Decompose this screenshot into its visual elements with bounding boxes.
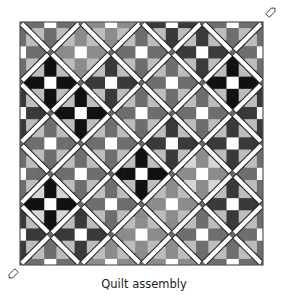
sashing-strip <box>0 22 20 265</box>
pin-marker-top-right-icon <box>266 6 277 17</box>
quilt-assembly-diagram <box>0 0 288 300</box>
sashing-strip <box>263 22 288 265</box>
figure-caption: Quilt assembly <box>0 277 288 291</box>
sashing-strip <box>0 22 20 265</box>
quilt-body <box>0 0 288 296</box>
sashing-strip <box>263 22 288 265</box>
